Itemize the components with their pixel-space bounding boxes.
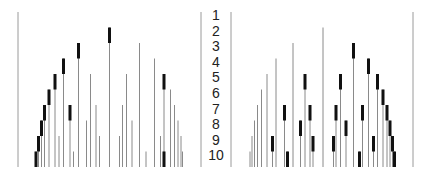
thick-segment: [283, 105, 286, 121]
left-line-panel: [35, 28, 183, 168]
thick-segment: [312, 136, 315, 152]
row-label-10: 10: [201, 148, 231, 164]
thick-segment: [35, 152, 38, 168]
row-label-4: 4: [201, 55, 231, 71]
thick-segment: [69, 105, 72, 121]
thick-segment: [376, 74, 379, 90]
thick-segment: [40, 121, 43, 137]
thick-segment: [62, 59, 65, 75]
thick-segment: [54, 74, 57, 90]
thick-segment: [391, 136, 394, 152]
thick-segment: [299, 121, 302, 137]
row-label-9: 9: [201, 133, 231, 149]
thick-segment: [393, 152, 396, 168]
row-label-1: 1: [201, 8, 231, 24]
thick-segment: [77, 43, 80, 59]
thick-segment: [386, 105, 389, 121]
right-line-panel: [250, 28, 396, 168]
thick-segment: [43, 105, 46, 121]
thick-segment: [286, 152, 289, 168]
thick-segment: [372, 136, 375, 152]
row-label-7: 7: [201, 102, 231, 118]
thick-segment: [339, 74, 342, 90]
thick-segment: [304, 74, 307, 90]
thick-segment: [358, 152, 361, 168]
row-label-8: 8: [201, 117, 231, 133]
thick-segment: [389, 121, 392, 137]
thick-segment: [345, 121, 348, 137]
row-number-column: 1 2 3 4 5 6 7 8 9 10: [201, 8, 231, 164]
row-label-3: 3: [201, 39, 231, 55]
thick-segment: [352, 43, 355, 59]
thick-segment: [48, 90, 51, 106]
thick-segment: [361, 105, 364, 121]
thick-segment: [163, 152, 166, 168]
thick-segment: [163, 74, 166, 90]
row-label-5: 5: [201, 70, 231, 86]
thick-segment: [271, 136, 274, 152]
thick-segment: [367, 59, 370, 75]
thick-segment: [332, 136, 335, 152]
thick-segment: [309, 105, 312, 121]
row-label-2: 2: [201, 24, 231, 40]
thick-segment: [37, 136, 40, 152]
row-label-6: 6: [201, 86, 231, 102]
thick-segment: [108, 28, 111, 44]
thick-segment: [335, 105, 338, 121]
thick-segment: [382, 90, 385, 106]
